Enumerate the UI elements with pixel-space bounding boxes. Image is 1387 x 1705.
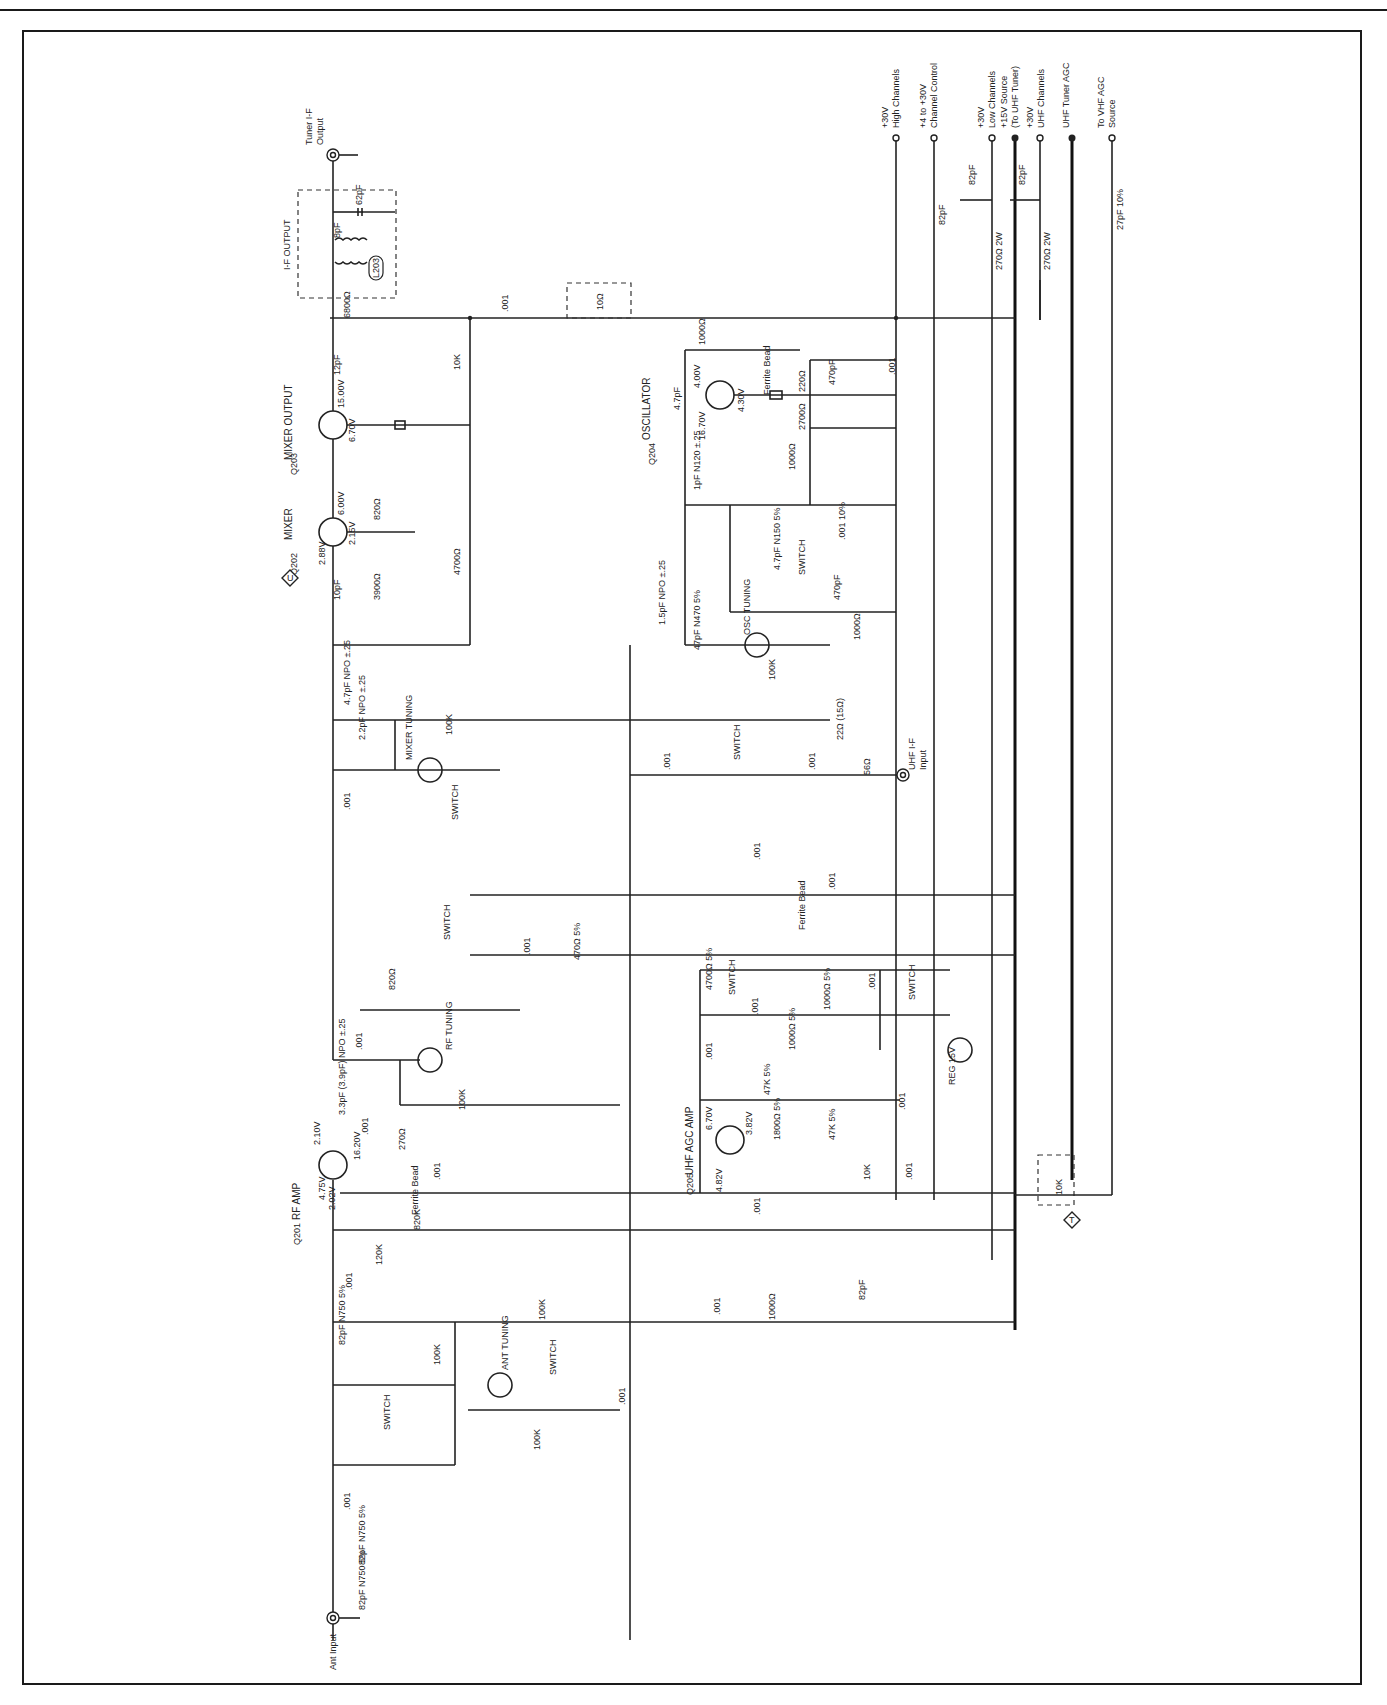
label-p30-low-1: +30V: [976, 107, 986, 128]
r213-value: 4700Ω: [452, 548, 462, 575]
antenna-section: Ant Input 100K SWITCH 82pF N750 5% 100K …: [327, 1285, 630, 1670]
r223-value: 1000Ω 5%: [787, 1008, 797, 1050]
r221-value: 47K 5%: [827, 1108, 837, 1140]
c228-value: .001: [897, 1092, 907, 1110]
r232-value: 1000Ω: [697, 318, 707, 345]
q204-e-voltage: 4.00V: [692, 364, 702, 388]
q201-g1-voltage: 2.02V: [327, 1186, 337, 1210]
c210-value: .001: [360, 1117, 370, 1135]
q205-b-voltage: 4.82V: [714, 1168, 724, 1192]
q203-ref: Q203: [289, 453, 299, 475]
c214-value: .001: [342, 792, 352, 810]
label-rf-tuning: RF TUNING: [444, 1001, 454, 1050]
q205-c-voltage: 6.70V: [704, 1106, 714, 1130]
c230-value: .001: [662, 752, 672, 770]
r212-value: 820Ω: [372, 498, 382, 520]
c215-value: 2.2pF NPO ±.25: [357, 675, 367, 740]
r231-value: 220Ω: [797, 370, 807, 392]
label-p30-high-2: High Channels: [891, 68, 901, 128]
label-tuner-if-output-1: Tuner I-F: [304, 108, 314, 145]
c237-value: .001 10%: [837, 502, 847, 540]
c206-value: .001: [617, 1387, 627, 1405]
c217-value: 10pF: [332, 579, 342, 600]
c224-value: .001: [904, 1162, 914, 1180]
cr2-label: SWITCH: [548, 1340, 558, 1376]
c201a-value: 82pF N750 5%: [357, 1550, 367, 1610]
r225-value: 22Ω (15Ω): [835, 698, 845, 740]
c238-value: 1pF N120 ±.25: [692, 431, 702, 490]
label-p30-uhf-1: +30V: [1025, 107, 1035, 128]
label-ant-tuning: ANT TUNING: [500, 1315, 510, 1370]
label-channel-control-2: Channel Control: [929, 63, 939, 128]
r202-value: 100K: [532, 1429, 542, 1450]
label-p15-source-2: (To UHF Tuner): [1010, 66, 1020, 128]
c209-value: 3.3pF (3.9pF) NPO ±.25: [337, 1019, 347, 1115]
q201-g2-voltage: 4.75V: [317, 1176, 327, 1200]
q201-ref: Q201: [292, 1223, 302, 1245]
r219-value: 1800Ω 5%: [772, 1098, 782, 1140]
label-osc-tuning: OSC TUNING: [742, 579, 752, 635]
r235-value: 10K: [1054, 1179, 1064, 1195]
uhf-if-section: UHF I-F Input .001 SWITCH .001 22Ω (15Ω)…: [630, 645, 928, 1640]
r224-value: 1000Ω 5%: [822, 968, 832, 1010]
c227-value: .001: [867, 972, 877, 990]
oscillator-section: OSCILLATOR Q204 4.00V 4.30V 16.70V 1000Ω…: [641, 318, 897, 680]
r203-value: 100K: [537, 1299, 547, 1320]
diamond-t: T: [1069, 1215, 1075, 1225]
l203-ref: L203: [371, 258, 381, 278]
c240-value: 470pF: [827, 359, 837, 385]
q205-e-voltage: 3.82V: [744, 1111, 754, 1135]
c280-value: 8pF: [332, 222, 342, 238]
label-tuner-if-output-2: Output: [315, 117, 325, 145]
mixer-tuning-section: 4.7pF NPO ±.25 2.2pF NPO ±.25 100K MIXER…: [333, 640, 630, 860]
label-ant-input: Ant Input: [328, 1633, 338, 1670]
c243-value: 82pF: [1017, 164, 1027, 185]
c279-value: 4.7pF: [672, 386, 682, 410]
cr1-label: SWITCH: [382, 1395, 392, 1431]
c231-value: .001: [752, 842, 762, 860]
q202-e-voltage: 2.15V: [347, 521, 357, 545]
label-p30-high-1: +30V: [880, 107, 890, 128]
c207-value: .001: [712, 1297, 722, 1315]
r222-value: 4700Ω 5%: [704, 948, 714, 990]
q203-b-voltage: 6.70V: [347, 418, 357, 442]
r201-value: 100K: [432, 1344, 442, 1365]
r228-value: 1000Ω: [852, 613, 862, 640]
label-if-output: I-F OUTPUT: [282, 219, 292, 270]
cr4-label: SWITCH: [450, 785, 460, 821]
r210-value: 100K: [444, 714, 454, 735]
c233-value: 1.5pF NPO ±.25: [657, 560, 667, 625]
supply-rails: [896, 138, 1112, 1330]
cr7-label: SWITCH: [907, 965, 917, 1001]
label-ferrite-bead-rf: Ferrite Bead: [410, 1165, 420, 1215]
q204-ref: Q204: [647, 443, 657, 465]
label-uhf-if-input-1: UHF I-F: [907, 738, 917, 770]
label-mixer-tuning: MIXER TUNING: [404, 695, 414, 760]
c232-value: .001: [807, 752, 817, 770]
c202-value: .001: [342, 1492, 352, 1510]
cr6-label: SWITCH: [797, 540, 807, 576]
q203-c-voltage: 15.00V: [336, 379, 346, 408]
label-vhf-agc-1: To VHF AGC: [1096, 76, 1106, 128]
q202-c-voltage: 6.00V: [336, 491, 346, 515]
label-oscillator: OSCILLATOR: [641, 378, 652, 440]
r209-value: 470Ω 5%: [572, 923, 582, 960]
r207-value: 100K: [457, 1089, 467, 1110]
c244-value: 27pF 10%: [1115, 189, 1125, 230]
r226-value: 56Ω: [862, 758, 872, 775]
r211-value: 3900Ω: [372, 573, 382, 600]
c242-value: 82pF: [967, 164, 977, 185]
label-p30-low-2: Low Channels: [987, 70, 997, 128]
uhf-agc-section: UHF AGC AMP Q205 6.70V 3.82V 4.82V 4700Ω…: [684, 948, 972, 1215]
c219-value: 12pF: [332, 354, 342, 375]
c208-value: 82pF: [857, 1279, 867, 1300]
label-p30-uhf-2: UHF Channels: [1036, 68, 1046, 128]
r233-value: 270Ω 2W: [994, 232, 1004, 270]
x209-label: REG 15V: [947, 1047, 957, 1085]
top-bus: [330, 316, 1015, 320]
supply-labels: +30V High Channels +4 to +30V Channel Co…: [880, 62, 1117, 128]
r229-value: 1000Ω: [787, 443, 797, 470]
c226-value: .001: [750, 997, 760, 1015]
c216-value: 4.7pF NPO ±.25: [342, 640, 352, 705]
r205-value: 820K: [412, 1209, 422, 1230]
